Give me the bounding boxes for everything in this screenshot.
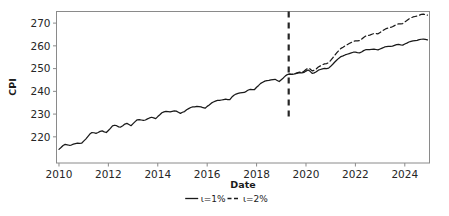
x-tick-label: 2012 xyxy=(95,168,122,180)
y-tick-label: 260 xyxy=(30,40,50,52)
x-tick-label: 2018 xyxy=(243,168,270,180)
y-axis-title: CPI xyxy=(7,78,18,95)
x-tick-label: 2014 xyxy=(144,168,171,180)
x-tick-label: 2022 xyxy=(342,168,369,180)
x-tick-label: 2024 xyxy=(391,168,418,180)
y-tick-label: 220 xyxy=(30,131,50,143)
y-tick-label: 230 xyxy=(30,108,50,120)
x-tick-label: 2020 xyxy=(293,168,320,180)
legend-label-2: ι=2% xyxy=(243,194,268,204)
x-axis-title: Date xyxy=(230,179,255,190)
figure-background xyxy=(0,0,449,216)
y-tick-label: 240 xyxy=(30,85,50,97)
chart-figure: 220230240250260270 201020122014201620182… xyxy=(0,0,449,216)
y-tick-label: 270 xyxy=(30,17,50,29)
cpi-line-chart: 220230240250260270 201020122014201620182… xyxy=(0,0,449,216)
legend-label-1: ι=1% xyxy=(201,194,226,204)
x-tick-label: 2016 xyxy=(194,168,221,180)
y-tick-label: 250 xyxy=(30,62,50,74)
x-tick-label: 2010 xyxy=(46,168,73,180)
